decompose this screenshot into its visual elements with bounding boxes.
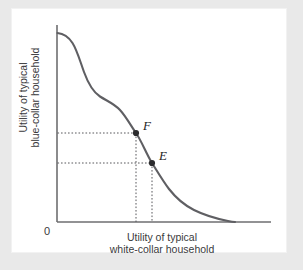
- y-axis-title: Utility of typical blue-collar household: [18, 33, 41, 163]
- data-point-e-label: E: [158, 148, 167, 163]
- origin-label: 0: [44, 225, 50, 237]
- data-point-e[interactable]: [149, 160, 155, 166]
- figure-frame: F E 0 Utility of typical white-collar ho…: [0, 0, 303, 270]
- y-axis-title-line-1: Utility of typical: [18, 33, 30, 163]
- x-axis-title: Utility of typical white-collar househol…: [72, 232, 252, 255]
- data-point-f[interactable]: [133, 130, 139, 136]
- x-axis-title-line-2: white-collar household: [72, 244, 252, 256]
- data-point-f-label: F: [142, 118, 152, 133]
- y-axis-title-line-2: blue-collar household: [29, 33, 41, 163]
- utility-possibility-frontier-chart: F E 0: [0, 0, 303, 270]
- x-axis-title-line-1: Utility of typical: [72, 232, 252, 244]
